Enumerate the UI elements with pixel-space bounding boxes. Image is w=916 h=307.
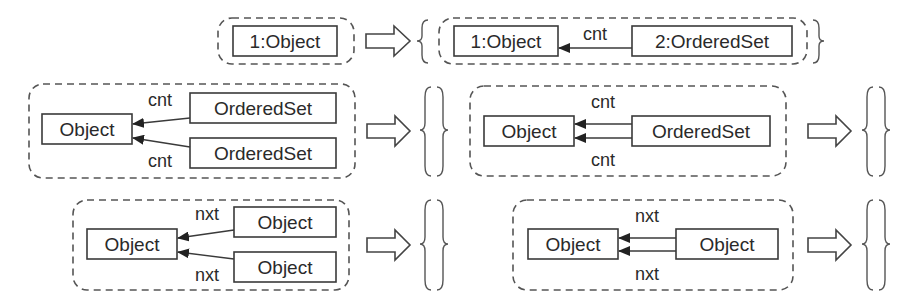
rewrite-arrow-icon — [367, 230, 410, 260]
edge-nxt-1 — [178, 230, 234, 238]
node-label: 1:Object — [250, 31, 321, 52]
node-label: 1:Object — [471, 31, 542, 52]
node-label: Object — [700, 234, 756, 255]
edge-label: cnt — [591, 150, 615, 170]
edge-label: cnt — [591, 92, 615, 112]
edge-label: cnt — [583, 24, 607, 44]
edge-cnt-1 — [133, 118, 190, 124]
row1-lhs-node-object: 1:Object — [233, 26, 337, 56]
node-label: Object — [502, 121, 558, 142]
rewrite-arrow-icon — [808, 116, 851, 146]
node-object-1: Object — [234, 207, 336, 237]
row2-rule-a: Object OrderedSet OrderedSet cnt cnt — [29, 84, 448, 178]
node-label: OrderedSet — [214, 143, 313, 164]
left-brace-icon — [862, 87, 873, 176]
row1-rule: 1:Object 1:Object cnt 2:OrderedSet — [218, 18, 824, 64]
node-label: OrderedSet — [214, 98, 313, 119]
row3-rule-b: Object Object nxt nxt — [513, 200, 890, 290]
left-brace-icon — [420, 200, 431, 290]
node-orderedset-2: OrderedSet — [190, 138, 336, 168]
node-object-2: Object — [676, 229, 778, 259]
node-label: Object — [105, 234, 161, 255]
edge-label: nxt — [195, 204, 219, 224]
right-brace-icon — [813, 20, 824, 63]
edge-label: cnt — [148, 151, 172, 171]
edge-cnt-2 — [133, 138, 190, 147]
rewrite-arrow-icon — [366, 26, 410, 56]
left-brace-icon — [420, 87, 431, 176]
right-brace-icon — [879, 200, 890, 290]
rewrite-arrow-icon — [367, 116, 410, 146]
node-object: Object — [528, 229, 618, 259]
row3-rule-a: Object Object Object nxt nxt — [73, 200, 448, 290]
node-orderedset: OrderedSet — [632, 116, 770, 146]
node-label: Object — [258, 212, 314, 233]
node-label: Object — [258, 257, 314, 278]
row1-rhs-node-orderedset: 2:OrderedSet — [632, 26, 792, 56]
graph-rewrite-rules-diagram: 1:Object 1:Object cnt 2:OrderedSet Objec… — [0, 0, 916, 307]
row1-rhs-node-object: 1:Object — [454, 26, 558, 56]
row2-rule-b: Object OrderedSet cnt cnt — [470, 86, 890, 176]
node-label: 2:OrderedSet — [655, 31, 770, 52]
edge-nxt-2 — [178, 252, 234, 259]
node-label: OrderedSet — [652, 121, 751, 142]
edge-label: nxt — [195, 265, 219, 285]
node-object-2: Object — [234, 252, 336, 282]
node-label: Object — [60, 119, 116, 140]
node-object: Object — [87, 229, 177, 259]
node-object: Object — [484, 116, 574, 146]
right-brace-icon — [879, 87, 890, 176]
rewrite-arrow-icon — [808, 230, 851, 260]
right-brace-icon — [437, 200, 448, 290]
edge-label: cnt — [148, 90, 172, 110]
edge-label: nxt — [635, 264, 659, 284]
node-orderedset-1: OrderedSet — [190, 93, 336, 123]
node-object: Object — [42, 114, 132, 144]
node-label: Object — [546, 234, 602, 255]
left-brace-icon — [862, 200, 873, 290]
right-brace-icon — [437, 87, 448, 176]
edge-label: nxt — [635, 206, 659, 226]
left-brace-icon — [417, 20, 428, 63]
